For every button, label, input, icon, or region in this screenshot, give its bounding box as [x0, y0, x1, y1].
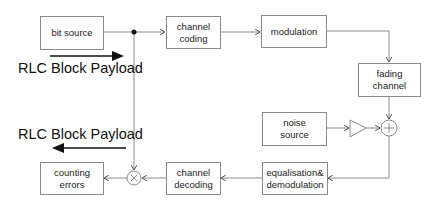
block-channel-coding: channel coding — [166, 16, 221, 49]
modulation-label: modulation — [271, 26, 317, 38]
counting-errors-label-1: counting — [54, 167, 90, 179]
counting-errors-label-2: errors — [60, 179, 85, 191]
amplifier-icon — [350, 120, 366, 137]
block-fading-channel: fading channel — [358, 63, 421, 97]
channel-decoding-label-1: channel — [177, 167, 210, 179]
arrow-modulation-to-fading — [326, 31, 389, 62]
equalisation-label-1: equalisation& — [266, 167, 323, 179]
rlc-backward-arrowhead-icon — [52, 143, 64, 153]
rlc-block-payload-forward-label: RLC Block Payload — [18, 60, 143, 76]
fading-channel-label-1: fading — [377, 68, 403, 80]
equalisation-label-2: demodulation — [266, 179, 323, 191]
block-modulation: modulation — [261, 15, 327, 48]
channel-coding-label-1: channel — [177, 21, 210, 33]
junction-dot-icon — [132, 30, 137, 35]
block-equalisation-demodulation: equalisation& demodulation — [262, 162, 328, 195]
channel-decoding-label-2: decoding — [174, 179, 213, 191]
fading-channel-label-2: channel — [373, 80, 406, 92]
channel-coding-label-2: coding — [180, 33, 208, 45]
bit-source-label: bit source — [51, 27, 92, 39]
noise-source-label-1: noise — [283, 117, 306, 129]
rlc-block-payload-backward-label: RLC Block Payload — [18, 126, 143, 142]
noise-source-label-2: source — [280, 129, 309, 141]
block-counting-errors: counting errors — [40, 162, 104, 195]
arrow-adder-to-equalisation — [328, 136, 389, 178]
block-noise-source: noise source — [262, 112, 327, 146]
block-channel-decoding: channel decoding — [166, 162, 221, 195]
block-bit-source: bit source — [40, 16, 104, 50]
